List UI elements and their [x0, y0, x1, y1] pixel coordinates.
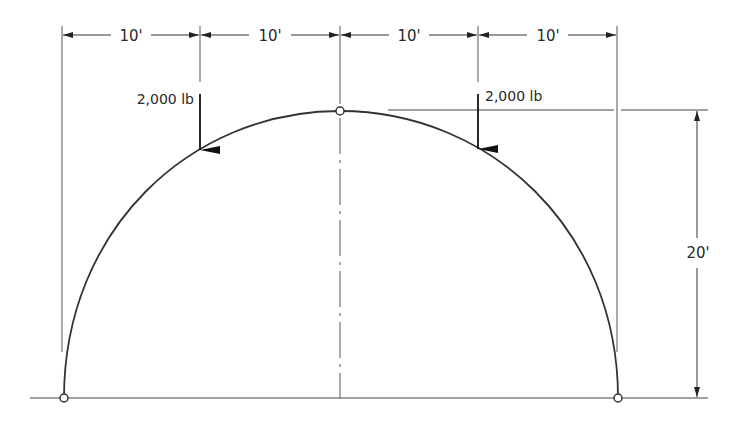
span-label-3: 10' [397, 27, 420, 45]
load-arrows [200, 94, 478, 150]
rise-label: 20' [686, 244, 709, 262]
load-label-right: 2,000 lb [485, 88, 542, 104]
crown-hinge-icon [336, 107, 344, 115]
span-label-2: 10' [258, 27, 281, 45]
span-label-4: 10' [536, 27, 559, 45]
arch-diagram: 10' 10' 10' 10' 20' 2,000 lb 2,000 lb [0, 0, 734, 421]
right-support-hinge-icon [614, 394, 622, 402]
arch-curve [64, 111, 618, 398]
left-support-hinge-icon [60, 394, 68, 402]
load-label-left: 2,000 lb [137, 91, 194, 107]
span-label-1: 10' [119, 27, 142, 45]
